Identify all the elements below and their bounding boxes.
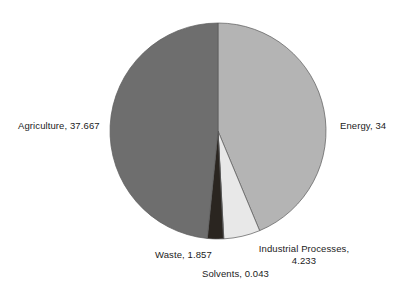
slice-label-industrial-line1: Industrial Processes, [259,243,349,254]
slice-label-waste: Waste, 1.857 [155,249,212,261]
slice-label-agriculture: Agriculture, 37.667 [18,120,100,132]
slice-label-energy: Energy, 34 [340,120,386,132]
slice-label-solvents: Solvents, 0.043 [202,268,269,280]
slice-label-industrial-line2: 4.233 [292,255,316,266]
slice-label-industrial-processes: Industrial Processes, 4.233 [258,243,350,267]
pie-slices-group [110,23,326,239]
pie-slice-agriculture [110,23,218,238]
pie-chart-page: Agriculture, 37.667 Energy, 34 Waste, 1.… [0,0,398,298]
